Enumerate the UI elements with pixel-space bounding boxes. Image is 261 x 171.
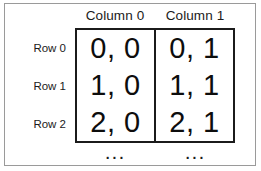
column-header-0: Column 0 — [75, 5, 155, 26]
row-label-2: Row 2 — [10, 105, 72, 143]
cell-row2-col1: 2, 1 — [156, 104, 233, 141]
cell-row2-col0: 2, 0 — [77, 104, 154, 141]
grid-column-0: 0, 0 1, 0 2, 0 — [77, 30, 154, 141]
continuation-row: ... ... — [75, 144, 235, 163]
ellipsis-column-1: ... — [155, 144, 235, 163]
cell-row1-col1: 1, 1 — [156, 67, 233, 104]
row-label-column: Row 0 Row 1 Row 2 — [10, 29, 72, 143]
index-grid: 0, 0 1, 0 2, 0 0, 1 1, 1 2, 1 — [75, 28, 235, 143]
row-label-1: Row 1 — [10, 67, 72, 105]
cell-row1-col0: 1, 0 — [77, 67, 154, 104]
cell-row0-col0: 0, 0 — [77, 30, 154, 67]
cell-row0-col1: 0, 1 — [156, 30, 233, 67]
array-index-diagram: Column 0 Column 1 Row 0 Row 1 Row 2 0, 0… — [0, 0, 261, 171]
column-header-row: Column 0 Column 1 — [75, 5, 235, 26]
ellipsis-column-0: ... — [75, 144, 155, 163]
grid-column-1: 0, 1 1, 1 2, 1 — [154, 30, 233, 141]
row-label-0: Row 0 — [10, 29, 72, 67]
column-header-1: Column 1 — [155, 5, 235, 26]
